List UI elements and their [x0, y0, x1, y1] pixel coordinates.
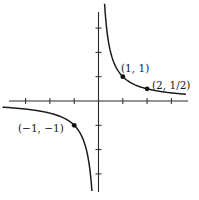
hyperbola-plot: (1, 1) (2, 1/2) (−1, −1) — [0, 0, 199, 200]
point-label-2-half: (2, 1/2) — [152, 79, 190, 91]
data-point — [145, 86, 150, 91]
point-label-1-1: (1, 1) — [121, 62, 149, 74]
point-label-neg1-neg1: (−1, −1) — [18, 122, 64, 134]
data-point — [72, 123, 77, 128]
curve-negative-branch — [3, 107, 92, 191]
data-point — [120, 74, 125, 79]
